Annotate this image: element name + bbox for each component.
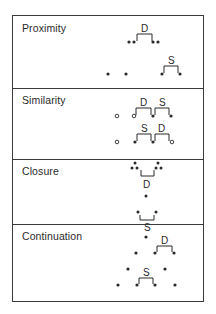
dot xyxy=(153,251,156,254)
label-same: S xyxy=(143,267,150,278)
open-dot xyxy=(132,114,136,118)
panel-continuation: Continuation D S xyxy=(13,224,203,301)
dot xyxy=(116,283,119,286)
dot xyxy=(155,167,158,170)
panel-proximity: Proximity D S xyxy=(13,16,203,88)
dot xyxy=(151,114,154,117)
dot xyxy=(132,40,135,43)
gestalt-figure-frame: Proximity D S Similarity xyxy=(12,15,204,302)
panel-closure: Closure D S xyxy=(13,159,203,224)
bracket-icon xyxy=(155,134,169,141)
bracket-icon xyxy=(137,34,152,41)
bracket-icon xyxy=(139,278,153,284)
dot xyxy=(169,114,172,117)
bracket-icon xyxy=(164,66,178,73)
label-same: S xyxy=(159,97,166,108)
open-dot xyxy=(170,140,174,144)
dot xyxy=(153,283,156,286)
open-dot xyxy=(115,140,119,144)
dot xyxy=(156,40,159,43)
dot xyxy=(160,72,163,75)
dot xyxy=(134,162,137,165)
similarity-diagram: D S S D xyxy=(13,88,203,159)
dot xyxy=(157,162,160,165)
bracket-icon xyxy=(157,246,172,252)
bracket-icon xyxy=(136,108,151,115)
dot xyxy=(145,195,148,198)
dot xyxy=(127,40,130,43)
dot xyxy=(134,251,137,254)
dot xyxy=(160,167,163,170)
dot xyxy=(151,140,154,143)
dot xyxy=(106,72,109,75)
dot xyxy=(133,140,136,143)
continuation-diagram: D S xyxy=(13,224,203,301)
dot xyxy=(173,283,176,286)
dot xyxy=(137,211,140,214)
dot xyxy=(135,283,138,286)
label-different: D xyxy=(143,179,150,190)
dot xyxy=(155,211,158,214)
open-dot xyxy=(115,114,119,118)
dot xyxy=(131,167,134,170)
label-different: D xyxy=(158,123,165,134)
dot xyxy=(144,235,147,238)
label-same: S xyxy=(141,123,148,134)
dot xyxy=(136,167,139,170)
bracket-icon xyxy=(140,215,154,220)
dot xyxy=(172,251,175,254)
bracket-icon xyxy=(137,134,151,141)
dot xyxy=(124,72,127,75)
label-different: D xyxy=(140,97,147,108)
dot xyxy=(126,267,129,270)
dot xyxy=(178,72,181,75)
panel-similarity: Similarity D S S D xyxy=(13,88,203,159)
label-different: D xyxy=(141,23,148,34)
dot xyxy=(163,267,166,270)
label-same: S xyxy=(168,55,175,66)
bracket-icon xyxy=(155,108,169,115)
bracket-icon xyxy=(141,170,154,176)
label-different: D xyxy=(161,235,168,246)
closure-diagram: D S xyxy=(13,159,203,224)
proximity-diagram: D S xyxy=(13,16,203,88)
